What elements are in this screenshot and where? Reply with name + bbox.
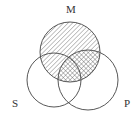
label-m: M [66,3,76,15]
label-p: P [124,97,130,109]
label-s: S [12,97,18,109]
venn-diagram: M S P [0,0,138,117]
